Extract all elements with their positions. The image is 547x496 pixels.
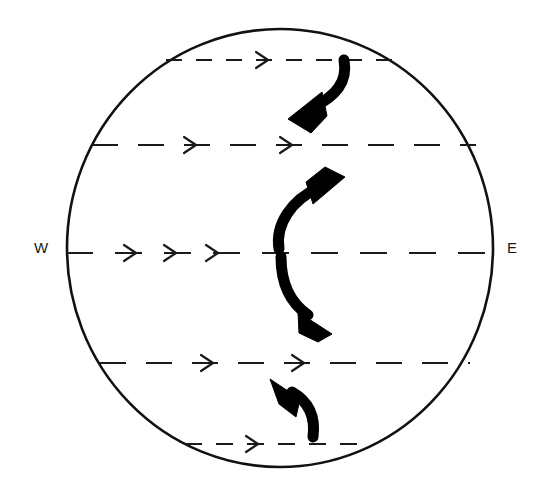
- overturning-arrow-3-head: [298, 312, 332, 342]
- overturning-arrow-up-right: [278, 167, 345, 249]
- west-label: W: [34, 239, 49, 256]
- diagram-root: W E: [0, 0, 547, 496]
- overturning-arrow-3-shaft: [281, 257, 308, 315]
- overturning-arrow-up-left-lower: [270, 379, 314, 437]
- overturning-arrow-down-right: [281, 257, 332, 342]
- overturning-arrows: [270, 60, 345, 437]
- zonal-arrowhead-3-3: [206, 245, 218, 261]
- east-label: E: [507, 239, 517, 256]
- zonal-line-mid-north: [92, 137, 476, 153]
- zonal-line-high-north: [166, 52, 404, 68]
- zonal-line-high-south: [185, 436, 357, 452]
- overturning-arrow-1-head: [288, 92, 327, 133]
- overturning-arrow-down-left-upper: [288, 60, 345, 133]
- globe-zonal-flow-diagram: W E: [0, 0, 547, 496]
- overturning-arrow-2-head: [306, 167, 345, 204]
- zonal-line-mid-south: [100, 355, 470, 371]
- overturning-arrow-4-head: [270, 379, 300, 417]
